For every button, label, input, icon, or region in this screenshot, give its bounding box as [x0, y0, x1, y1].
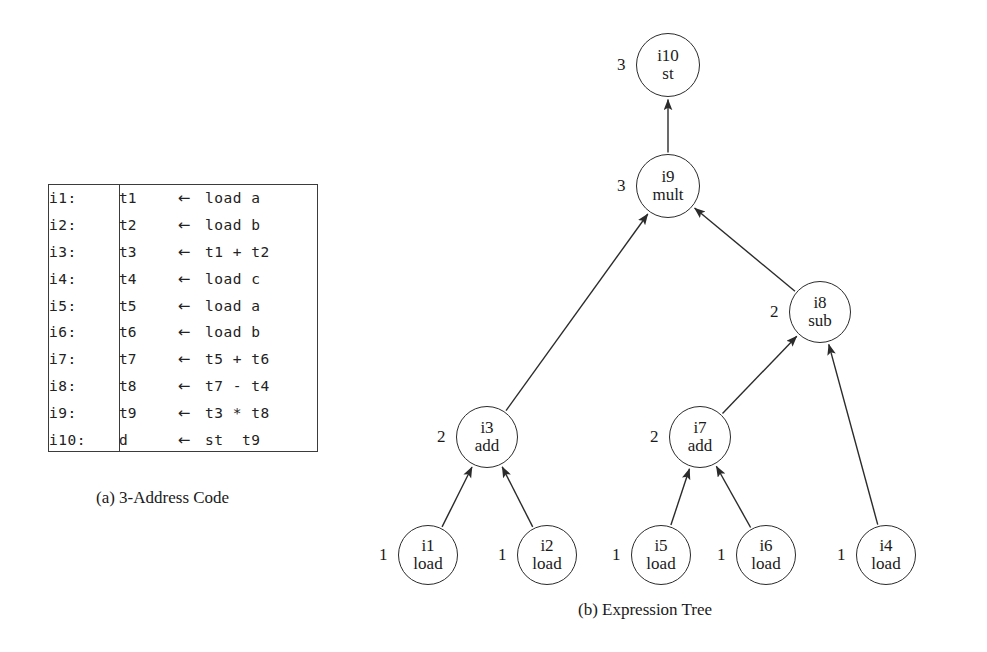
- code-expr: load c: [205, 265, 317, 292]
- code-label: i1:: [49, 185, 119, 212]
- code-expr: load b: [205, 319, 317, 346]
- code-dest: t2: [119, 212, 163, 239]
- tree-node-i7: i7add: [669, 406, 731, 468]
- tree-edge-i8-to-i9: [695, 208, 795, 291]
- code-dest: t4: [119, 265, 163, 292]
- tree-node-i2: i2load: [517, 525, 577, 585]
- tree-node-i1: i1load: [398, 525, 458, 585]
- tree-node-id: i5: [654, 537, 667, 555]
- code-dest: t9: [119, 399, 163, 426]
- tree-node-weight-i8: 2: [770, 302, 779, 322]
- tree-node-id: i10: [657, 47, 679, 65]
- tree-node-weight-i1: 1: [379, 545, 388, 565]
- code-expr: t3 * t8: [205, 399, 317, 426]
- tree-edge-i6-to-i7: [716, 466, 750, 527]
- tree-node-op: load: [871, 555, 900, 573]
- panel-a-caption: (a) 3-Address Code: [96, 488, 229, 508]
- code-expr: st t9: [205, 426, 317, 453]
- code-label: i2:: [49, 212, 119, 239]
- tree-node-i5: i5load: [631, 525, 691, 585]
- tree-node-id: i4: [879, 537, 892, 555]
- tree-node-weight-i10: 3: [617, 55, 626, 75]
- tree-node-id: i2: [540, 537, 553, 555]
- code-line: i8:t8←t7 - t4: [49, 373, 317, 400]
- code-line: i4:t4←load c: [49, 265, 317, 292]
- code-arrow: ←: [163, 265, 205, 292]
- code-label: i3:: [49, 239, 119, 266]
- code-expr: t5 + t6: [205, 346, 317, 373]
- panel-b-caption: (b) Expression Tree: [578, 600, 712, 620]
- code-listing-table: i1:t1←load ai2:t2←load bi3:t3←t1 + t2i4:…: [49, 185, 317, 453]
- code-expr: t7 - t4: [205, 373, 317, 400]
- code-expr: load a: [205, 185, 317, 212]
- code-arrow: ←: [163, 426, 205, 453]
- tree-node-i6: i6load: [736, 525, 796, 585]
- tree-node-i4: i4load: [856, 525, 916, 585]
- tree-node-op: add: [475, 437, 500, 455]
- code-line: i7:t7←t5 + t6: [49, 346, 317, 373]
- code-arrow: ←: [163, 185, 205, 212]
- tree-node-weight-i3: 2: [437, 427, 446, 447]
- code-line: i1:t1←load a: [49, 185, 317, 212]
- tree-node-op: mult: [652, 186, 683, 204]
- code-dest: d: [119, 426, 163, 453]
- tree-edge-i1-to-i3: [442, 467, 472, 527]
- tree-node-weight-i2: 1: [498, 545, 507, 565]
- code-line: i9:t9←t3 * t8: [49, 399, 317, 426]
- tree-node-id: i7: [693, 419, 706, 437]
- three-address-code-panel: i1:t1←load ai2:t2←load bi3:t3←t1 + t2i4:…: [48, 184, 318, 452]
- code-arrow: ←: [163, 399, 205, 426]
- code-label: i4:: [49, 265, 119, 292]
- tree-node-i8: i8sub: [789, 281, 851, 343]
- tree-edge-i5-to-i7: [671, 469, 690, 525]
- code-expr: load a: [205, 292, 317, 319]
- tree-node-op: add: [688, 437, 713, 455]
- code-label: i10:: [49, 426, 119, 453]
- code-dest: t5: [119, 292, 163, 319]
- code-dest: t6: [119, 319, 163, 346]
- tree-node-weight-i7: 2: [650, 427, 659, 447]
- code-arrow: ←: [163, 212, 205, 239]
- code-arrow: ←: [163, 319, 205, 346]
- tree-edge-i4-to-i8: [829, 344, 878, 524]
- tree-edge-i7-to-i8: [723, 336, 797, 413]
- tree-node-id: i3: [480, 419, 493, 437]
- tree-node-op: load: [413, 555, 442, 573]
- tree-node-weight-i5: 1: [612, 545, 621, 565]
- code-dest: t8: [119, 373, 163, 400]
- tree-node-op: st: [662, 65, 673, 83]
- tree-node-id: i8: [813, 294, 826, 312]
- tree-node-op: load: [532, 555, 561, 573]
- code-arrow: ←: [163, 239, 205, 266]
- tree-node-op: load: [751, 555, 780, 573]
- code-label: i7:: [49, 346, 119, 373]
- tree-node-i3: i3add: [456, 406, 518, 468]
- code-line: i3:t3←t1 + t2: [49, 239, 317, 266]
- tree-node-id: i9: [661, 168, 674, 186]
- code-label: i8:: [49, 373, 119, 400]
- code-arrow: ←: [163, 373, 205, 400]
- tree-node-i10: i10st: [636, 33, 700, 97]
- tree-node-op: load: [646, 555, 675, 573]
- tree-node-weight-i9: 3: [617, 176, 626, 196]
- tree-edge-i2-to-i3: [502, 467, 533, 527]
- tree-node-weight-i4: 1: [837, 545, 846, 565]
- code-line: i2:t2←load b: [49, 212, 317, 239]
- code-dest: t7: [119, 346, 163, 373]
- tree-node-weight-i6: 1: [717, 545, 726, 565]
- code-dest: t3: [119, 239, 163, 266]
- code-arrow: ←: [163, 292, 205, 319]
- code-expr: t1 + t2: [205, 239, 317, 266]
- code-arrow: ←: [163, 346, 205, 373]
- code-line: i6:t6←load b: [49, 319, 317, 346]
- tree-node-id: i6: [759, 537, 772, 555]
- code-label: i5:: [49, 292, 119, 319]
- code-listing-body: i1:t1←load ai2:t2←load bi3:t3←t1 + t2i4:…: [49, 185, 317, 453]
- code-label: i9:: [49, 399, 119, 426]
- tree-node-id: i1: [421, 537, 434, 555]
- tree-edge-i3-to-i9: [506, 214, 648, 411]
- tree-node-i9: i9mult: [636, 154, 700, 218]
- code-expr: load b: [205, 212, 317, 239]
- code-label: i6:: [49, 319, 119, 346]
- tree-node-op: sub: [808, 312, 832, 330]
